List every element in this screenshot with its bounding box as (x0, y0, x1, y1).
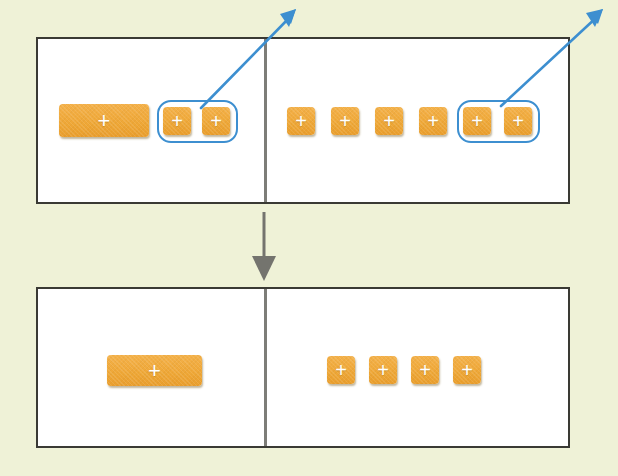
plus-symbol: + (427, 111, 439, 131)
plus-symbol: + (210, 111, 222, 131)
top-left-ten-rod: + (59, 104, 149, 137)
top-right-unit-3: + (375, 107, 403, 135)
plus-symbol: + (377, 360, 389, 380)
top-right-unit-2: + (331, 107, 359, 135)
bottom-right-unit-2: + (369, 356, 397, 384)
down-arrow (252, 212, 276, 281)
bottom-right-unit-4: + (453, 356, 481, 384)
panel-before: + + + + + + + + + (36, 37, 570, 204)
top-right-unit-1: + (287, 107, 315, 135)
bottom-right-unit-3: + (411, 356, 439, 384)
plus-symbol: + (471, 111, 483, 131)
panel-after: + + + + + (36, 287, 570, 448)
plus-symbol: + (339, 111, 351, 131)
plus-symbol: + (419, 360, 431, 380)
highlight-group-right (457, 100, 540, 143)
plus-symbol: + (335, 360, 347, 380)
diagram-canvas: + + + + + + + + + + (0, 0, 618, 476)
plus-symbol: + (383, 111, 395, 131)
top-right-unit-4: + (419, 107, 447, 135)
plus-symbol: + (148, 360, 161, 382)
bottom-right-unit-1: + (327, 356, 355, 384)
plus-symbol: + (98, 110, 111, 132)
plus-symbol: + (295, 111, 307, 131)
plus-symbol: + (512, 111, 524, 131)
panel-before-divider (264, 39, 267, 202)
plus-symbol: + (171, 111, 183, 131)
plus-symbol: + (461, 360, 473, 380)
bottom-left-ten-rod: + (107, 355, 202, 386)
highlight-group-left (157, 100, 238, 143)
panel-after-divider (264, 289, 267, 446)
